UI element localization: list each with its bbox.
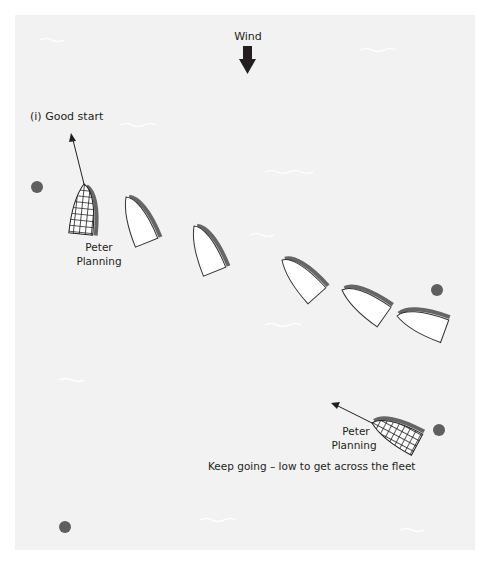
buoy-mark-icon xyxy=(431,284,443,296)
boat-label-line1: Peter xyxy=(342,425,370,437)
boat-label-line2: Planning xyxy=(76,255,121,267)
title-label: (i) Good start xyxy=(30,110,104,123)
boat-label-line2: Planning xyxy=(331,439,376,451)
buoy-mark-icon xyxy=(59,521,71,533)
buoy-mark-icon xyxy=(433,424,445,436)
buoy-mark-icon xyxy=(31,181,43,193)
wind-label: Wind xyxy=(234,30,262,43)
boat-label-line1: Peter xyxy=(85,241,113,253)
race-start-diagram: Wind (i) Good start Peter Planning xyxy=(0,0,486,563)
caption: Keep going – low to get across the fleet xyxy=(208,460,415,472)
